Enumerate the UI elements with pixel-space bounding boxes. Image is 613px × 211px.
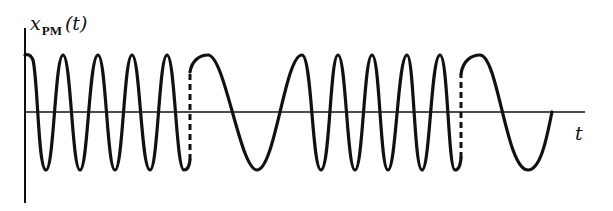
x-axis-label: t bbox=[575, 122, 583, 144]
y-axis-subscript: PM bbox=[42, 23, 62, 38]
pm-waveform-diagram bbox=[0, 0, 613, 211]
y-axis-symbol: x bbox=[30, 12, 41, 34]
y-axis-label: xPM(t) bbox=[30, 12, 87, 39]
y-axis-argument: (t) bbox=[65, 12, 87, 34]
